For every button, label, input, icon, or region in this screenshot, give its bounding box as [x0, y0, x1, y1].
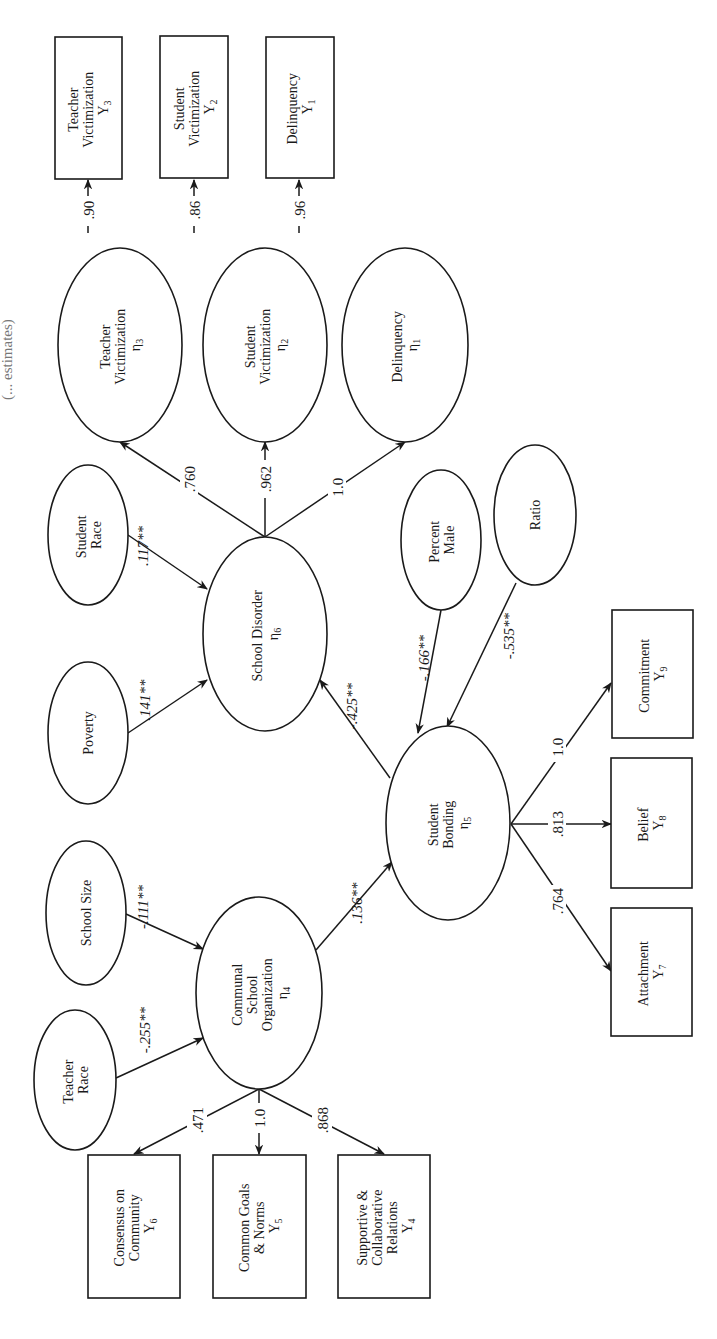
- coef-eta1-y1: .96: [292, 200, 308, 219]
- coef-size-eta4: -.111**: [135, 884, 151, 929]
- latent-eta2-student-victimization: Student Victimization η2: [203, 248, 327, 442]
- latent-eta4-communal-school-organization: Communal School Organization η4: [196, 897, 322, 1089]
- svg-text:Ratio: Ratio: [528, 500, 543, 530]
- coef-trace-eta4: -.255**: [137, 1006, 153, 1053]
- indicator-y6: Consensus on Community Y6: [88, 1155, 180, 1298]
- indicator-y4: Supportive & Collaborative Relations Y4: [338, 1155, 430, 1298]
- structural-equation-model-diagram: (... estimates) Teacher Victimization Y3: [0, 0, 717, 1339]
- svg-text:Poverty: Poverty: [81, 711, 96, 755]
- coef-eta5-y8: .813: [550, 811, 566, 837]
- coef-eta4-y4: .868: [315, 1107, 331, 1133]
- coef-eta6-eta2: .962: [258, 466, 274, 492]
- coef-eta5-y9: 1.0: [550, 738, 566, 757]
- latent-eta3-teacher-victimization: Teacher Victimization η3: [58, 248, 182, 442]
- exogenous-percent-male: Percent Male: [401, 470, 481, 610]
- indicator-y1: Delinquency Y1: [266, 37, 334, 178]
- coef-eta4-y5: 1.0: [252, 1109, 268, 1128]
- svg-text:School Size: School Size: [79, 880, 94, 947]
- indicator-y7: Attachment Y7: [611, 908, 692, 1036]
- latent-eta5-student-bonding: Student Bonding η5: [386, 726, 510, 920]
- indicator-y8: Belief Y8: [611, 758, 692, 888]
- indicator-y9: Commitment Y9: [612, 610, 693, 738]
- edge-trace-eta4: [116, 1038, 203, 1078]
- coef-race-eta6: .117**: [135, 525, 151, 566]
- indicator-y2: Student Victimization Y2: [160, 36, 228, 178]
- coef-ratio-eta5: -.535**: [501, 612, 517, 659]
- exogenous-student-race: Student Race: [48, 465, 128, 605]
- exogenous-school-size: School Size: [46, 841, 126, 985]
- exogenous-ratio: Ratio: [494, 445, 576, 585]
- coef-eta4-eta5: .136**: [349, 882, 365, 924]
- exogenous-teacher-race: Teacher Race: [34, 1010, 116, 1150]
- title-fragment: (... estimates): [0, 319, 16, 400]
- indicator-y5: Common Goals & Norms Y5: [213, 1155, 306, 1298]
- coef-eta4-y6: .471: [190, 1107, 206, 1133]
- latent-eta1-delinquency: Delinquency η1: [342, 248, 468, 442]
- coef-male-eta5: -.166**: [416, 634, 432, 681]
- coef-poverty-eta6: .141**: [137, 679, 153, 721]
- coef-eta5-eta6: -.425**: [344, 682, 360, 729]
- coef-eta5-y7: .764: [550, 887, 566, 914]
- latent-eta6-school-disorder: School Disorder η6: [203, 537, 327, 731]
- indicator-y3: Teacher Victimization Y3: [55, 37, 122, 179]
- exogenous-poverty: Poverty: [48, 662, 128, 804]
- coef-eta6-eta1: 1.0: [330, 478, 346, 497]
- coef-eta6-eta3: .760: [182, 466, 198, 492]
- coef-eta3-y3: .90: [81, 201, 97, 220]
- coef-eta2-y2: .86: [187, 200, 203, 219]
